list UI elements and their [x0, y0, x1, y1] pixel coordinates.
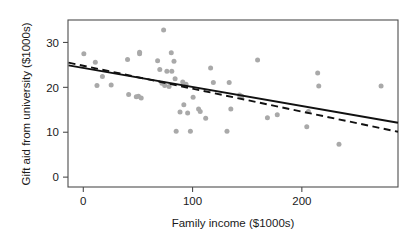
chart-background	[0, 0, 417, 242]
data-point	[227, 80, 232, 85]
data-point	[157, 67, 162, 72]
data-point	[304, 124, 309, 129]
data-point	[161, 27, 166, 32]
y-tick-label: 30	[46, 37, 59, 49]
data-point	[315, 70, 320, 75]
data-point	[126, 92, 131, 97]
data-point	[137, 50, 142, 55]
y-tick-label: 20	[46, 82, 59, 94]
data-point	[93, 60, 98, 65]
data-point	[336, 142, 341, 147]
x-tick-label: 0	[80, 195, 86, 207]
data-point	[185, 110, 190, 115]
x-tick-label: 100	[183, 195, 202, 207]
data-point	[211, 80, 216, 85]
data-point	[171, 59, 176, 64]
data-point	[224, 129, 229, 134]
data-point	[169, 50, 174, 55]
data-point	[164, 69, 169, 74]
data-point	[208, 66, 213, 71]
x-axis-title: Family income ($1000s)	[172, 217, 295, 229]
data-point	[228, 106, 233, 111]
data-point	[178, 110, 183, 115]
data-point	[198, 109, 203, 114]
data-point	[275, 112, 280, 117]
data-point	[191, 95, 196, 100]
data-point	[155, 58, 160, 63]
data-point	[255, 57, 260, 62]
data-point	[316, 83, 321, 88]
data-point	[188, 129, 193, 134]
data-point	[125, 57, 130, 62]
y-tick-label: 0	[53, 171, 59, 183]
chart-canvas: 0102030 0100200 Family income ($1000s) G…	[0, 0, 417, 242]
data-point	[109, 83, 114, 88]
data-point	[173, 76, 178, 81]
data-point	[379, 83, 384, 88]
data-point	[94, 83, 99, 88]
data-point	[265, 115, 270, 120]
data-point	[81, 51, 86, 56]
y-tick-label: 10	[46, 126, 59, 138]
data-point	[203, 116, 208, 121]
data-point	[181, 102, 186, 107]
x-tick-label: 200	[292, 195, 311, 207]
scatter-plot-figure: 0102030 0100200 Family income ($1000s) G…	[0, 0, 417, 242]
data-point	[169, 69, 174, 74]
y-axis-title: Gift aid from university ($1000s)	[20, 22, 32, 185]
data-point	[139, 96, 144, 101]
data-point	[174, 129, 179, 134]
data-point	[100, 74, 105, 79]
